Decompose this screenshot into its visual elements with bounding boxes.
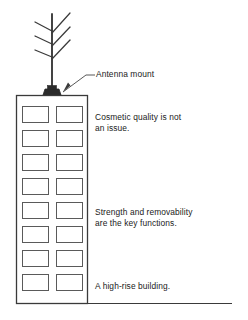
- window: [57, 251, 83, 267]
- antenna-branch-left-2: [35, 36, 52, 44]
- building-outline: [17, 96, 88, 304]
- diagram-svg: [0, 0, 248, 320]
- antenna-branch-left-1: [35, 22, 52, 31]
- antenna-mount-base: [43, 89, 61, 95]
- window: [23, 179, 49, 195]
- note-cosmetic-quality: Cosmetic quality is not an issue.: [95, 112, 181, 134]
- note-strength-removability: Strength and removability are the key fu…: [95, 207, 192, 229]
- window: [23, 275, 49, 291]
- window: [57, 179, 83, 195]
- window: [57, 155, 83, 171]
- antenna-mount-icon: [43, 86, 61, 96]
- window: [23, 107, 49, 123]
- window: [23, 131, 49, 147]
- window: [57, 275, 83, 291]
- window: [23, 227, 49, 243]
- diagram-canvas: Antenna mount Cosmetic quality is not an…: [0, 0, 248, 320]
- antenna-mount-collar: [48, 86, 57, 90]
- note-high-rise-building: A high-rise building.: [95, 281, 170, 292]
- antenna-branch-left-3: [35, 50, 52, 57]
- antenna-group: [35, 13, 70, 90]
- window: [57, 203, 83, 219]
- building-windows: [23, 107, 83, 291]
- antenna-mount-leader: [63, 75, 95, 92]
- window: [57, 131, 83, 147]
- window: [57, 107, 83, 123]
- label-antenna-mount: Antenna mount: [96, 69, 154, 80]
- window: [23, 155, 49, 171]
- window: [23, 251, 49, 267]
- window: [23, 203, 49, 219]
- window: [57, 227, 83, 243]
